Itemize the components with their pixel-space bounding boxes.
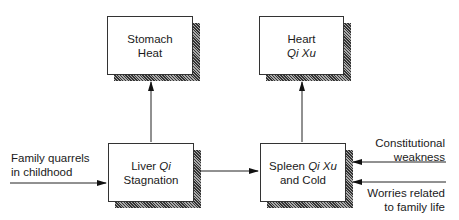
input-family-quarrels: Family quarrels in childhood <box>11 151 90 179</box>
node-liver-qi-stagnation: Liver Qi Stagnation <box>108 143 194 202</box>
node-label: Stagnation <box>124 173 179 187</box>
node-label: Heart <box>287 32 315 46</box>
node-label: Liver Qi <box>131 159 171 173</box>
input-worries-family-life: Worries related to family life <box>367 186 445 214</box>
node-label: Heat <box>138 46 162 60</box>
node-label: and Cold <box>280 173 326 187</box>
node-label: Stomach <box>127 32 172 46</box>
node-label-italic: Qi Xu <box>287 46 316 60</box>
node-spleen-qi-xu-cold: Spleen Qi Xu and Cold <box>260 143 346 202</box>
node-heart-qi-xu: Heart Qi Xu <box>259 16 344 75</box>
node-stomach-heat: Stomach Heat <box>107 16 193 75</box>
input-constitutional-weakness: Constitutional weakness <box>375 136 445 164</box>
node-label: Spleen Qi Xu <box>269 159 337 173</box>
